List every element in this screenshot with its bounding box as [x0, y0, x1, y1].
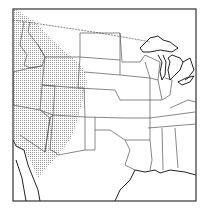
shaded-region — [13, 9, 87, 178]
us-map — [0, 0, 209, 213]
